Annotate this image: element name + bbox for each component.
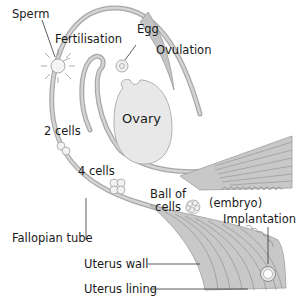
fertilised-egg <box>41 49 75 83</box>
four-cell-embryo <box>110 179 125 194</box>
diagram-artwork <box>0 0 302 304</box>
label-ovary: Ovary <box>122 112 161 125</box>
label-implantation: Implantation <box>223 213 296 226</box>
label-sperm: Sperm <box>12 8 49 21</box>
label-2-cells: 2 cells <box>44 125 81 138</box>
label-fertilisation: Fertilisation <box>55 33 122 46</box>
reproduction-diagram: Sperm Fertilisation Egg Ovulation Ovary … <box>0 0 302 304</box>
label-uterus-lining: Uterus lining <box>84 283 157 296</box>
two-cell-embryo <box>57 142 70 155</box>
egg-cell <box>116 60 128 72</box>
uterus-upper-wall <box>180 136 292 190</box>
label-embryo: (embryo) <box>209 197 262 210</box>
label-ball-of-cells-line2: cells <box>150 201 186 214</box>
ball-of-cells <box>186 200 200 214</box>
label-egg: Egg <box>137 23 159 36</box>
label-fallopian-tube: Fallopian tube <box>12 232 93 245</box>
label-uterus-wall: Uterus wall <box>84 258 149 271</box>
label-ball-of-cells: Ball of cells <box>150 188 186 214</box>
label-ovulation: Ovulation <box>156 44 211 57</box>
label-4-cells: 4 cells <box>78 165 115 178</box>
